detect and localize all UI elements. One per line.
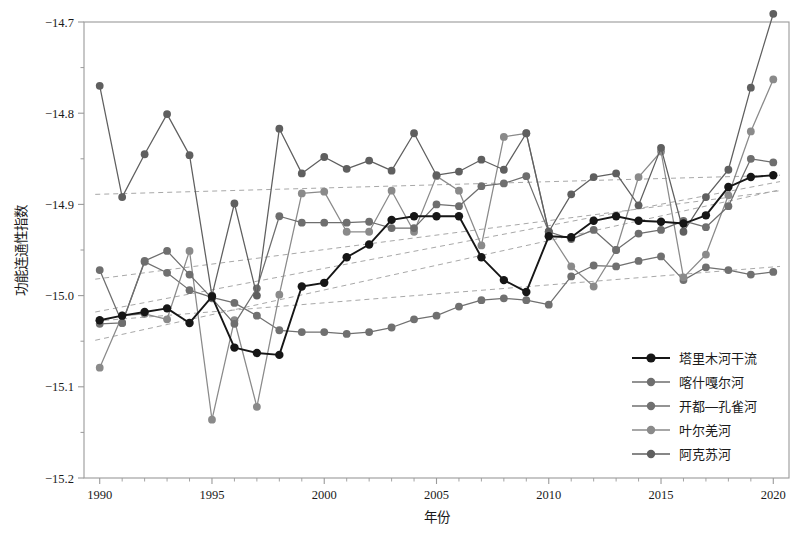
- data-point: [567, 233, 575, 241]
- data-point: [500, 276, 508, 284]
- data-point: [769, 268, 777, 276]
- legend-marker-2: [647, 402, 655, 410]
- data-point: [410, 129, 418, 137]
- data-point: [298, 328, 306, 336]
- data-point: [478, 242, 486, 250]
- data-point: [612, 169, 620, 177]
- y-tick-label: −15.2: [45, 472, 74, 486]
- data-point: [724, 191, 732, 199]
- legend-label-0: 塔里木河干流: [679, 351, 757, 366]
- data-point: [612, 212, 620, 220]
- data-point: [478, 182, 486, 190]
- axis-labels-layer: 年份功能连通性指数: [14, 204, 451, 526]
- data-point: [433, 171, 441, 179]
- data-point: [275, 326, 283, 334]
- data-point: [186, 247, 194, 255]
- data-point: [186, 286, 194, 294]
- data-point: [545, 301, 553, 309]
- data-point: [365, 218, 373, 226]
- data-point: [231, 299, 239, 307]
- data-point: [455, 187, 463, 195]
- series-line-3: [100, 79, 774, 419]
- data-point: [365, 228, 373, 236]
- chart-legend: 塔里木河干流喀什嘎尔河开都—孔雀河叶尔羌河阿克苏河: [632, 351, 757, 462]
- data-point: [455, 202, 463, 210]
- data-point: [590, 262, 598, 270]
- data-point: [298, 219, 306, 227]
- line-chart: −14.7−14.8−14.9−15.0−15.1−15.21990199520…: [0, 0, 808, 540]
- data-point: [635, 173, 643, 181]
- x-tick-label: 2000: [312, 488, 337, 502]
- data-point: [612, 246, 620, 254]
- data-point: [141, 150, 149, 158]
- data-point: [388, 224, 396, 232]
- data-point: [635, 201, 643, 209]
- data-point: [230, 343, 238, 351]
- data-point: [567, 273, 575, 281]
- data-point: [275, 291, 283, 299]
- data-point: [679, 219, 687, 227]
- data-point: [590, 173, 598, 181]
- data-point: [231, 320, 239, 328]
- legend-marker-1: [647, 378, 655, 386]
- data-point: [702, 223, 710, 231]
- data-point: [410, 315, 418, 323]
- data-point: [275, 212, 283, 220]
- data-point: [635, 257, 643, 265]
- legend-marker-0: [646, 353, 655, 362]
- x-tick-label: 2010: [536, 488, 561, 502]
- data-point: [186, 271, 194, 279]
- data-point: [455, 303, 463, 311]
- data-point: [96, 82, 104, 90]
- data-point: [657, 252, 665, 260]
- data-point: [343, 219, 351, 227]
- y-axis-title: 功能连通性指数: [14, 204, 29, 296]
- data-point: [724, 166, 732, 174]
- data-point: [141, 257, 149, 265]
- data-point: [96, 316, 104, 324]
- data-point: [769, 159, 777, 167]
- y-tick-label: −14.7: [45, 16, 74, 30]
- x-tick-label: 2015: [649, 488, 674, 502]
- x-tick-label: 1995: [199, 488, 224, 502]
- data-point: [500, 166, 508, 174]
- data-point: [747, 271, 755, 279]
- data-point: [589, 217, 597, 225]
- data-series-layer: [96, 10, 778, 424]
- data-point: [320, 188, 328, 196]
- data-point: [298, 190, 306, 198]
- data-point: [724, 202, 732, 210]
- data-point: [634, 217, 642, 225]
- data-point: [612, 263, 620, 271]
- data-point: [522, 129, 530, 137]
- y-tick-label: −15.1: [45, 380, 74, 394]
- data-point: [747, 155, 755, 163]
- legend-marker-3: [647, 426, 655, 434]
- data-point: [320, 328, 328, 336]
- x-tick-label: 2005: [424, 488, 449, 502]
- x-tick-label: 1990: [87, 488, 112, 502]
- data-point: [769, 76, 777, 84]
- data-point: [724, 183, 732, 191]
- data-point: [590, 283, 598, 291]
- data-point: [343, 228, 351, 236]
- data-point: [253, 349, 261, 357]
- data-point: [500, 133, 508, 141]
- data-point: [477, 253, 485, 261]
- data-point: [522, 296, 530, 304]
- series-line-4: [100, 14, 774, 296]
- data-point: [342, 253, 350, 261]
- data-point: [231, 200, 239, 208]
- data-point: [455, 168, 463, 176]
- data-point: [433, 312, 441, 320]
- data-point: [657, 226, 665, 234]
- y-tick-label: −14.8: [45, 107, 74, 121]
- data-point: [432, 212, 440, 220]
- data-point: [208, 292, 216, 300]
- y-tick-label: −14.9: [45, 198, 74, 212]
- data-point: [455, 212, 463, 220]
- data-point: [275, 125, 283, 133]
- data-point: [590, 226, 598, 234]
- data-point: [500, 294, 508, 302]
- data-point: [478, 296, 486, 304]
